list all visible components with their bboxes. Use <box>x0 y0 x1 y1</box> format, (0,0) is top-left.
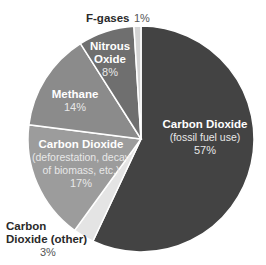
label-subtitle-line2: of biomass, etc.) <box>22 164 140 177</box>
label-title: Carbon Dioxide <box>150 118 260 131</box>
label-title: Carbon Dioxide <box>22 138 140 151</box>
label-title-line1: Nitrous <box>85 40 135 53</box>
label-subtitle-line1: (deforestation, decay <box>22 151 140 164</box>
label-subtitle: (fossil fuel use) <box>150 131 260 144</box>
label-nitrous-oxide: Nitrous Oxide 8% <box>85 40 135 79</box>
label-co2-other: Carbon Dioxide (other) 3% <box>6 220 86 259</box>
label-percent: 8% <box>85 66 135 79</box>
label-percent: 57% <box>150 144 260 157</box>
label-title: Methane <box>40 88 110 101</box>
label-co2-deforestation: Carbon Dioxide (deforestation, decay of … <box>22 138 140 190</box>
label-title-line2: Oxide <box>85 53 135 66</box>
label-percent: 17% <box>22 177 140 190</box>
label-percent: 14% <box>40 101 110 114</box>
label-percent: 1% <box>134 12 150 24</box>
label-fgases: F-gases 1% <box>86 10 148 25</box>
label-title-line2: Dioxide (other) <box>6 233 86 246</box>
label-title: F-gases <box>86 12 129 24</box>
label-percent: 3% <box>6 246 86 259</box>
label-title-line1: Carbon <box>6 220 86 233</box>
label-methane: Methane 14% <box>40 88 110 114</box>
label-co2-fossil: Carbon Dioxide (fossil fuel use) 57% <box>150 118 260 157</box>
